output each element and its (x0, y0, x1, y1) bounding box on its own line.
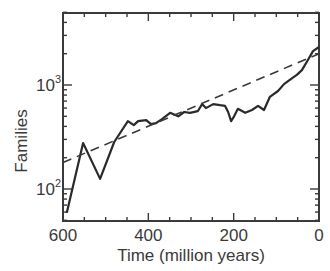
x-tick-label: 0 (314, 226, 323, 245)
y-tick-label: 102 (36, 177, 61, 199)
fit-line-dashed (63, 54, 319, 163)
x-tick-label: 200 (219, 226, 247, 245)
y-tick-label: 103 (36, 73, 61, 95)
families-over-time-chart: 6004002000102103 Time (million years) Fa… (0, 0, 330, 271)
y-axis-title: Families (12, 109, 31, 172)
x-tick-label: 400 (134, 226, 162, 245)
plot-border (63, 13, 319, 221)
x-tick-label: 600 (49, 226, 77, 245)
x-axis-title: Time (million years) (117, 246, 265, 265)
plot-frame (63, 13, 319, 221)
families-line (67, 47, 319, 213)
axis-ticks (63, 12, 319, 221)
data-series (63, 47, 319, 213)
